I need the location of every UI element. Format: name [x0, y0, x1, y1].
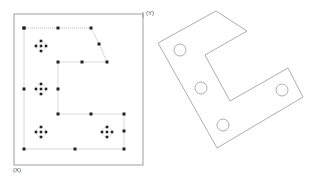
hole-point — [40, 136, 43, 139]
path-point — [123, 130, 126, 133]
part-outline — [158, 11, 303, 148]
y-axis-label: (Y) — [146, 10, 154, 16]
path-point — [23, 88, 26, 91]
hole-point — [40, 83, 43, 86]
part-hole — [195, 82, 207, 94]
x-axis-label: (X) — [13, 167, 21, 173]
path-point — [57, 61, 60, 64]
hole-point — [40, 88, 43, 91]
path-point — [81, 61, 84, 64]
path-point — [23, 27, 26, 30]
path-point — [123, 148, 126, 151]
path-point — [57, 88, 60, 91]
hole-point — [106, 136, 109, 139]
path-point — [57, 27, 60, 30]
hole-point — [106, 131, 109, 134]
hole-point — [35, 45, 38, 48]
hole-point — [35, 131, 38, 134]
hole-point — [40, 126, 43, 129]
hole-point — [40, 40, 43, 43]
path-point — [90, 27, 93, 30]
hole-point — [35, 88, 38, 91]
hole-point — [40, 50, 43, 53]
hole-point — [45, 45, 48, 48]
path-point — [23, 148, 26, 151]
path-point — [98, 43, 101, 46]
hole-point — [45, 131, 48, 134]
frame — [14, 14, 143, 165]
hole-point — [40, 93, 43, 96]
path-point — [74, 148, 77, 151]
path-point — [123, 113, 126, 116]
diagram-canvas — [0, 0, 319, 178]
part-hole — [276, 84, 288, 96]
path-point — [106, 61, 109, 64]
hole-point — [106, 126, 109, 129]
hole-point — [40, 45, 43, 48]
part-hole — [217, 119, 229, 131]
hole-point — [101, 131, 104, 134]
hole-point — [40, 131, 43, 134]
hole-point — [111, 131, 114, 134]
path-point — [90, 113, 93, 116]
toolpath-outline — [24, 28, 124, 149]
path-point — [57, 113, 60, 116]
hole-point — [45, 88, 48, 91]
part-hole — [174, 44, 186, 56]
